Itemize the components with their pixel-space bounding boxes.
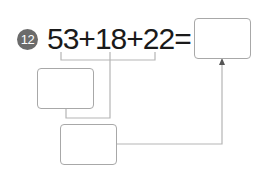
problem-number-badge: 12 — [17, 29, 38, 50]
equation-text: 53+18+22= — [47, 22, 191, 56]
result-connector — [116, 64, 222, 144]
arrow-up-icon — [219, 58, 225, 65]
first-partial-sum-box[interactable] — [37, 68, 94, 109]
second-partial-sum-box[interactable] — [60, 124, 117, 165]
result-answer-box[interactable] — [194, 18, 251, 59]
